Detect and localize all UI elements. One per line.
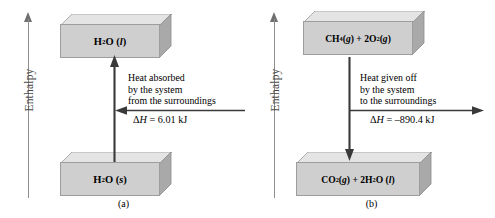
box-side-face <box>159 152 173 198</box>
box-top-b: CH4 (g) + 2O2 (g) <box>303 11 413 47</box>
delta-h-b: ΔH = –890.4 kJ <box>370 114 434 125</box>
enthalpy-axis-b: Enthalpy <box>268 12 282 198</box>
box-top-b-label: CH4 (g) + 2O2 (g) <box>303 21 413 55</box>
note-b-line-3: to the surroundings <box>360 95 436 107</box>
box-side-face <box>412 11 426 57</box>
box-top-a-label: H2O (l) <box>60 24 160 58</box>
panel-b: Enthalpy CH4 (g) + 2O2 (g) CO2 (g) + 2H2… <box>248 0 495 218</box>
delta-h-a: ΔH = 6.01 kJ <box>133 114 187 125</box>
box-side-face <box>419 152 433 198</box>
note-a-line-1: Heat absorbed <box>128 72 216 84</box>
caption-b: (b) <box>248 198 495 209</box>
note-b: Heat given off by the system to the surr… <box>360 72 436 107</box>
note-a-line-3: from the surroundings <box>128 95 216 107</box>
note-a-line-2: by the system <box>128 84 216 96</box>
note-b-line-1: Heat given off <box>360 72 436 84</box>
box-bottom-b: CO2 (g) + 2H2O (l) <box>296 152 420 188</box>
box-bottom-a-label: H2O (s) <box>60 162 160 196</box>
note-b-line-2: by the system <box>360 84 436 96</box>
box-top-a: H2O (l) <box>60 14 160 50</box>
enthalpy-axis-label-b: Enthalpy <box>269 57 281 123</box>
box-bottom-a: H2O (s) <box>60 152 160 188</box>
vertical-arrow-down-b <box>345 57 354 161</box>
enthalpy-axis-label-a: Enthalpy <box>23 57 35 123</box>
enthalpy-axis-a: Enthalpy <box>22 12 36 198</box>
box-side-face <box>159 14 173 60</box>
vertical-arrow-up-a <box>110 55 119 162</box>
panel-a: Enthalpy H2O (l) H2O (s) <box>0 0 247 218</box>
caption-a: (a) <box>0 198 247 209</box>
note-a: Heat absorbed by the system from the sur… <box>128 72 216 107</box>
box-bottom-b-label: CO2 (g) + 2H2O (l) <box>296 162 420 196</box>
